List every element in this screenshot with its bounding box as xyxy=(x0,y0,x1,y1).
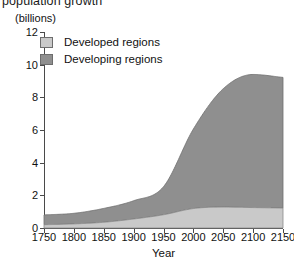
x-tick-mark xyxy=(104,229,105,233)
y-tick-label: 8 xyxy=(14,91,38,103)
y-tick-label: 6 xyxy=(14,124,38,136)
legend-swatch-developing-icon xyxy=(40,54,53,65)
x-tick-mark xyxy=(223,229,224,233)
legend-label-developing: Developing regions xyxy=(64,53,162,65)
x-tick-mark xyxy=(74,229,75,233)
x-tick-mark xyxy=(193,229,194,233)
y-tick-mark xyxy=(40,97,44,98)
legend-swatch-developed-icon xyxy=(40,37,53,48)
y-tick-mark xyxy=(40,130,44,131)
x-tick-mark xyxy=(44,229,45,233)
x-tick-mark xyxy=(134,229,135,233)
x-tick-mark xyxy=(164,229,165,233)
y-tick-mark xyxy=(40,163,44,164)
y-tick-label: 10 xyxy=(14,59,38,71)
legend-item-developing: Developing regions xyxy=(40,51,162,67)
x-tick-mark xyxy=(283,229,284,233)
y-tick-label: 12 xyxy=(14,26,38,38)
y-tick-label: 2 xyxy=(14,189,38,201)
x-axis-title: Year xyxy=(44,247,283,259)
legend-label-developed: Developed regions xyxy=(64,36,160,48)
area-developing-regions xyxy=(44,74,283,224)
legend: Developed regions Developing regions xyxy=(40,34,162,68)
legend-item-developed: Developed regions xyxy=(40,34,162,50)
population-growth-chart-figure: population growth (billions) 024681012 1… xyxy=(0,0,294,276)
y-tick-mark xyxy=(40,195,44,196)
y-tick-label: 4 xyxy=(14,157,38,169)
y-tick-mark xyxy=(40,32,44,33)
x-tick-mark xyxy=(253,229,254,233)
